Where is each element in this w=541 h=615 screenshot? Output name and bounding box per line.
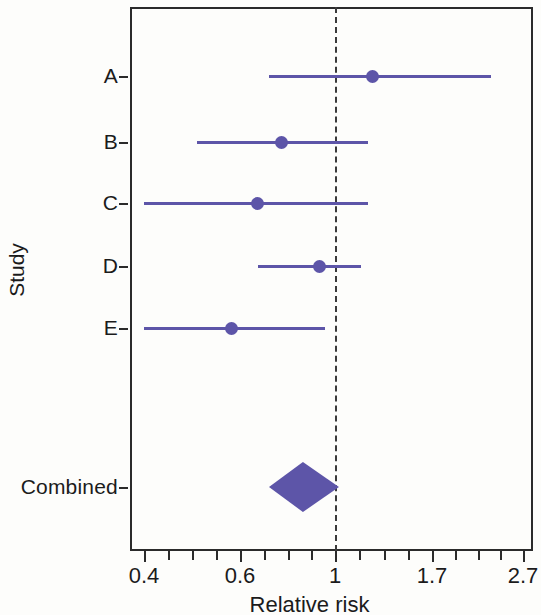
summary-diamond-combined xyxy=(269,462,339,512)
x-axis-minor-tick xyxy=(359,551,361,560)
y-axis-label-combined: Combined xyxy=(21,475,118,499)
y-axis-label-b: B xyxy=(104,130,118,154)
y-axis-label-a: A xyxy=(104,64,118,88)
y-axis-tick-a xyxy=(119,76,128,78)
x-axis-major-tick-1 xyxy=(335,551,337,562)
x-axis-minor-tick xyxy=(455,551,457,560)
y-axis-tick-e xyxy=(119,328,128,330)
confidence-interval-line-d xyxy=(258,265,361,268)
x-axis-minor-tick xyxy=(216,551,218,560)
x-axis-minor-tick xyxy=(408,551,410,560)
point-estimate-marker-e xyxy=(225,322,238,335)
y-axis-label-c: C xyxy=(103,191,118,215)
x-axis-minor-tick xyxy=(288,551,290,560)
x-axis-minor-tick xyxy=(264,551,266,560)
x-axis-tick-label-2.7: 2.7 xyxy=(508,563,539,589)
x-axis-tick-label-0.6: 0.6 xyxy=(225,563,256,589)
x-axis-major-tick-0.6 xyxy=(240,551,242,562)
x-axis-title: Relative risk xyxy=(0,592,541,615)
x-axis-minor-tick xyxy=(384,551,386,560)
point-estimate-marker-b xyxy=(275,136,288,149)
plot-area xyxy=(130,7,533,551)
x-axis-major-tick-2.7 xyxy=(523,551,525,562)
x-axis-minor-tick xyxy=(168,551,170,560)
x-axis-ticks xyxy=(130,551,533,563)
y-axis-label-e: E xyxy=(104,316,118,340)
x-axis-minor-tick xyxy=(478,551,480,560)
y-axis-tick-b xyxy=(119,142,128,144)
x-axis-minor-tick xyxy=(500,551,502,560)
x-axis-tick-label-1: 1 xyxy=(329,563,341,589)
forest-plot-figure: Study ABCDECombined 0.40.611.72.7 Relati… xyxy=(0,0,541,615)
x-axis-tick-label-1.7: 1.7 xyxy=(417,563,448,589)
point-estimate-marker-d xyxy=(313,260,326,273)
y-axis-labels: ABCDECombined xyxy=(0,7,118,551)
y-axis-tick-combined xyxy=(119,487,128,489)
x-axis-minor-tick xyxy=(192,551,194,560)
x-axis-tick-labels: 0.40.611.72.7 xyxy=(0,563,541,593)
x-axis-major-tick-0.4 xyxy=(144,551,146,562)
y-axis-tick-d xyxy=(119,266,128,268)
x-axis-minor-tick xyxy=(311,551,313,560)
x-axis-tick-label-0.4: 0.4 xyxy=(129,563,160,589)
confidence-interval-line-a xyxy=(269,75,492,78)
y-axis-label-d: D xyxy=(103,254,118,278)
x-axis-major-tick-1.7 xyxy=(432,551,434,562)
point-estimate-marker-c xyxy=(251,197,264,210)
y-axis-tick-c xyxy=(119,203,128,205)
x-axis-title-text: Relative risk xyxy=(250,592,370,615)
point-estimate-marker-a xyxy=(366,70,379,83)
